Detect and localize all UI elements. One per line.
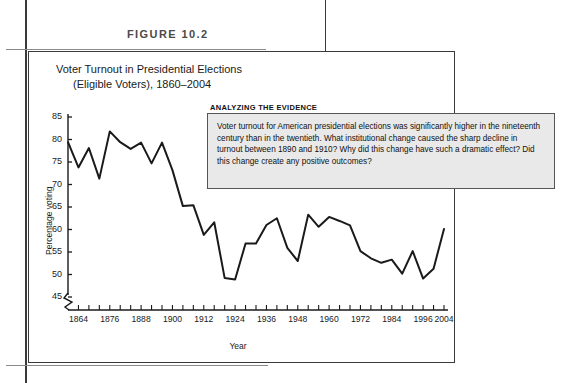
- x-tick-label: 1972: [343, 314, 377, 324]
- x-tick-label: 1984: [375, 314, 409, 324]
- y-tick-label: 65: [42, 201, 62, 211]
- x-tick-label: 1912: [187, 314, 221, 324]
- x-tick-label: 1876: [93, 314, 127, 324]
- callout-body: Voter turnout for American presidential …: [217, 121, 545, 167]
- y-tick-label: 70: [42, 179, 62, 189]
- x-tick-label: 1888: [124, 314, 158, 324]
- y-tick-label: 55: [42, 246, 62, 256]
- y-tick-label: 80: [42, 134, 62, 144]
- callout-box: Voter turnout for American presidential …: [207, 113, 555, 189]
- x-tick-label: 1936: [249, 314, 283, 324]
- x-tick-label: 1960: [312, 314, 346, 324]
- x-tick-label: 2004: [427, 314, 461, 324]
- y-tick-label: 75: [42, 156, 62, 166]
- y-tick-label: 85: [42, 111, 62, 121]
- x-tick-label: 1864: [61, 314, 95, 324]
- y-tick-label: 60: [42, 224, 62, 234]
- callout-heading: ANALYZING THE EVIDENCE: [210, 103, 317, 112]
- x-tick-label: 1900: [155, 314, 189, 324]
- chart-plot-area: [0, 0, 588, 383]
- y-tick-label: 50: [42, 269, 62, 279]
- textbook-page: FIGURE 10.2 Voter Turnout in Presidentia…: [0, 0, 588, 383]
- y-tick-label: 45: [42, 291, 62, 301]
- x-tick-label: 1924: [218, 314, 252, 324]
- x-tick-label: 1948: [281, 314, 315, 324]
